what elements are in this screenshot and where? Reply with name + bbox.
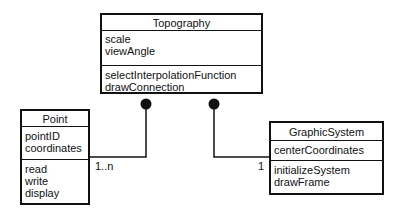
class-point[interactable]: Point pointID coordinates read write dis… [20,109,90,205]
operation: initializeSystem [274,164,379,176]
operations-section: initializeSystem drawFrame [271,160,382,189]
attribute: scale [105,33,258,45]
class-name: GraphicSystem [271,123,382,141]
operation: drawConnection [105,81,258,93]
operation: drawFrame [274,176,379,188]
class-topography[interactable]: Topography scale viewAngle selectInterpo… [100,13,263,94]
operations-section: read write display [22,159,88,200]
association-line-point [89,104,146,157]
composition-diamond-icon [209,99,220,110]
multiplicity-label-graphicsystem: 1 [258,160,264,172]
association-line-graphicsystem [214,104,270,157]
operation: selectInterpolationFunction [105,69,258,81]
attribute: pointID [25,130,85,142]
attributes-section: centerCoordinates [271,141,382,160]
attributes-section: scale viewAngle [102,31,261,65]
attributes-section: pointID coordinates [22,127,88,159]
attribute: centerCoordinates [274,144,379,156]
operation: read [25,163,85,175]
operation: write [25,175,85,187]
class-name: Topography [102,15,261,31]
multiplicity-label-point: 1..n [95,160,113,172]
attribute: viewAngle [105,45,258,57]
operation: display [25,187,85,199]
composition-diamond-icon [141,99,152,110]
operations-section: selectInterpolationFunction drawConnecti… [102,65,261,94]
attribute: coordinates [25,142,85,154]
class-name: Point [22,111,88,127]
class-graphicsystem[interactable]: GraphicSystem centerCoordinates initiali… [269,121,384,195]
